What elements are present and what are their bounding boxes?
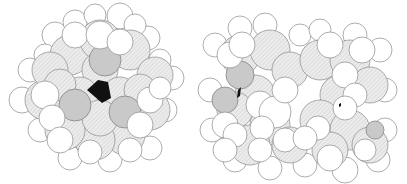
hydrogen-atom [229, 32, 255, 58]
right-molecule-model [198, 13, 397, 183]
hydrogen-atom [213, 138, 237, 162]
hydrogen-atom [317, 145, 343, 171]
hydrogen-atom [78, 140, 102, 164]
oxygen-atom [366, 121, 384, 139]
oxygen-atom [212, 87, 238, 113]
hydrogen-atom [31, 81, 59, 109]
hydrogen-atom [149, 77, 171, 99]
hydrogen-atom [127, 112, 153, 138]
hydrogen-atom [333, 96, 357, 120]
hydrogen-atom [62, 22, 88, 48]
hydrogen-atom [107, 29, 133, 55]
hydrogen-atom [272, 77, 298, 103]
hydrogen-atom [289, 24, 311, 46]
hydrogen-atom [354, 139, 376, 161]
hydrogen-atom [293, 126, 317, 150]
hydrogen-atom [317, 32, 343, 58]
hydrogen-atom [349, 37, 375, 63]
hydrogen-atom [250, 116, 274, 140]
hydrogen-atom [118, 138, 142, 162]
left-molecule-model [9, 3, 184, 172]
hydrogen-atom [47, 127, 73, 153]
hydrogen-atom [248, 138, 272, 162]
molecular-models-figure [0, 0, 407, 184]
